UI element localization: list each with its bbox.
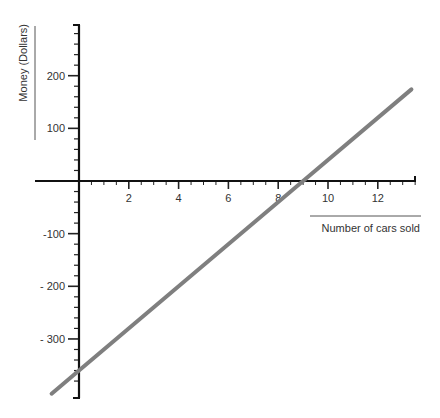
data-line: [52, 89, 412, 393]
y-tick-label: - 200: [40, 280, 65, 292]
y-tick-label: - 300: [40, 333, 65, 345]
y-axis-title: Money (Dollars): [17, 24, 29, 102]
x-axis-title-group: Number of cars sold: [310, 216, 421, 234]
x-tick-label: 2: [126, 192, 132, 204]
line-chart: Money (Dollars) Number of cars sold 2468…: [0, 0, 440, 418]
x-tick-label: 6: [225, 192, 231, 204]
y-tick-label: 200: [47, 70, 65, 82]
tick-labels: 24681012200100-100- 200- 300: [40, 70, 384, 345]
major-ticks: [68, 76, 378, 339]
x-tick-label: 12: [372, 192, 384, 204]
x-tick-label: 4: [176, 192, 182, 204]
x-axis-title: Number of cars sold: [322, 222, 420, 234]
y-tick-label: -100: [43, 228, 65, 240]
x-tick-label: 10: [322, 192, 334, 204]
y-tick-label: 100: [47, 122, 65, 134]
y-axis-title-group: Money (Dollars): [17, 24, 35, 140]
